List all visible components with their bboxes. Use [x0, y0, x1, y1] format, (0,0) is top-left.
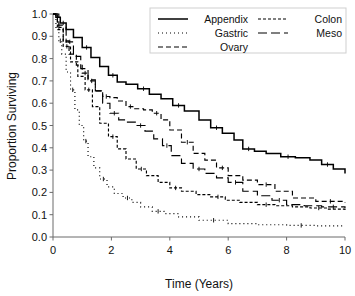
x-axis-tick-label: 2 — [108, 244, 114, 256]
x-axis-tick-label: 4 — [167, 244, 173, 256]
legend-label-meso: Meso — [316, 27, 342, 39]
y-axis-tick-label: 0.6 — [32, 97, 47, 109]
y-axis-title: Proportion Surviving — [5, 72, 19, 180]
y-axis-tick-label: 0.5 — [32, 120, 47, 132]
x-axis-title: Time (Years) — [165, 277, 233, 291]
legend: AppendixGastricOvaryColonMeso — [150, 8, 346, 53]
x-axis-tick-label: 0 — [50, 244, 56, 256]
y-axis-tick-label: 0.0 — [32, 231, 47, 243]
y-axis-tick-label: 0.1 — [32, 209, 47, 221]
legend-label-colon: Colon — [315, 13, 343, 25]
legend-label-appendix: Appendix — [204, 13, 249, 25]
x-axis-tick-label: 8 — [284, 244, 290, 256]
survival-plot-canvas: 0.00.10.20.30.40.50.60.70.80.91.00246810… — [0, 0, 355, 296]
x-axis-tick-label: 10 — [339, 244, 351, 256]
survival-chart-figure: 0.00.10.20.30.40.50.60.70.80.91.00246810… — [0, 0, 355, 296]
y-axis-tick-label: 1.0 — [32, 8, 47, 20]
y-axis-tick-label: 0.2 — [32, 186, 47, 198]
y-axis-tick-label: 0.8 — [32, 53, 47, 65]
y-axis-tick-label: 0.4 — [32, 142, 47, 154]
y-axis-tick-label: 0.9 — [32, 30, 47, 42]
y-axis-tick-label: 0.3 — [32, 164, 47, 176]
y-axis-tick-label: 0.7 — [32, 75, 47, 87]
x-axis-tick-label: 6 — [225, 244, 231, 256]
legend-label-gastric: Gastric — [215, 27, 248, 39]
legend-label-ovary: Ovary — [220, 41, 249, 53]
